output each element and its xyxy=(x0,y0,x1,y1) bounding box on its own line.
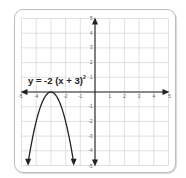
svg-text:-3: -3 xyxy=(88,134,92,139)
svg-text:-2: -2 xyxy=(64,94,68,99)
svg-text:1: 1 xyxy=(108,94,111,99)
axes xyxy=(21,18,170,167)
svg-text:-5: -5 xyxy=(88,164,92,169)
svg-text:3: 3 xyxy=(138,94,141,99)
svg-text:-5: -5 xyxy=(18,94,22,99)
svg-text:-4: -4 xyxy=(88,148,92,153)
svg-text:-2: -2 xyxy=(88,119,92,124)
svg-text:2: 2 xyxy=(123,94,126,99)
svg-text:-1: -1 xyxy=(88,104,92,109)
svg-text:5: 5 xyxy=(90,16,93,21)
svg-text:5: 5 xyxy=(168,94,171,99)
svg-text:-4: -4 xyxy=(34,94,38,99)
coordinate-plane: -5-4-2-112345-5-4-3-2-112345 y = -2 (x +… xyxy=(0,0,186,178)
svg-text:-1: -1 xyxy=(78,94,82,99)
equation-label: y = -2 (x + 3)2 xyxy=(28,74,86,86)
svg-text:4: 4 xyxy=(153,94,156,99)
